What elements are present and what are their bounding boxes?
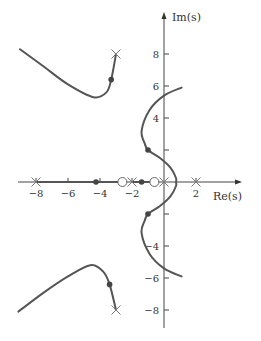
y-tick-label: 4 (153, 113, 159, 124)
y-tick-label: 6 (153, 81, 159, 92)
locus-branch (18, 265, 116, 312)
x-tick-label: −8 (29, 188, 44, 199)
gain-point-marker (139, 179, 145, 185)
x-axis-label: Re(s) (213, 190, 242, 203)
x-tick-label: −2 (125, 188, 140, 199)
y-tick-label: 8 (153, 49, 159, 60)
y-tick-label: −8 (144, 305, 159, 316)
gain-point-marker (108, 77, 114, 83)
y-tick-label: −6 (144, 273, 159, 284)
zero-circle-icon (118, 178, 127, 187)
x-tick-label: −6 (61, 188, 76, 199)
imag-axis-arrow-icon (162, 12, 167, 19)
axes (18, 12, 242, 328)
gain-point-marker (93, 179, 99, 185)
locus-branch (20, 49, 116, 97)
real-axis-arrow-icon (235, 180, 242, 185)
x-tick-label: 2 (193, 188, 199, 199)
zero-circle-icon (150, 178, 159, 187)
gain-point-marker (145, 147, 151, 153)
y-axis-label: Im(s) (172, 11, 201, 24)
x-tick-label: −4 (93, 188, 108, 199)
root-locus-plot: −8−6−4−22864−4−6−8 Im(s) Re(s) (0, 0, 261, 341)
gain-point-marker (107, 282, 113, 288)
gain-point-marker (145, 211, 151, 217)
